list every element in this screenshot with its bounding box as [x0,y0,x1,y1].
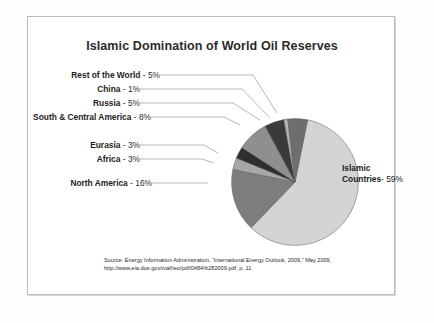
slice-label-value: - 59% [381,174,403,184]
slice-label-eurasia: Eurasia - 3% [28,140,140,150]
slice-label-value: - 3% [123,154,140,164]
slice-label-value: - 5% [123,98,140,108]
slice-label-value: - 1% [123,84,140,94]
slice-label-name: China [97,84,120,94]
source-line-2: http://www.eia.doe.gov/oiaf/ieo/pdf/0484… [104,264,394,272]
slice-label-rest-of-the-world: Rest of the World - 5% [28,70,160,80]
source-line-1: Source: Energy Information Administratio… [104,256,394,264]
chart-title: Islamic Domination of World Oil Reserves [28,39,396,53]
slice-label-south-central-america: South & Central America - 8% [28,112,151,122]
source-note: Source: Energy Information Administratio… [104,256,394,273]
slice-label-value: - 5% [143,70,160,80]
slice-label-value: - 8% [134,112,151,122]
page-background: Islamic Domination of World Oil Reserves [0,0,434,323]
slice-label-china: China - 1% [28,84,140,94]
slice-label-russia: Russia - 5% [28,98,140,108]
slice-label-name: Russia [93,98,120,108]
slice-label-name: Eurasia [90,140,120,150]
slice-label-islamic-countries: Islamic Countries- 59% [342,163,403,184]
slice-label-africa: Africa - 3% [28,154,140,164]
slice-label-name: Rest of the World [71,70,140,80]
slice-label-name: North America [70,178,127,188]
slice-label-name-line1: Islamic [342,163,370,173]
slice-label-value: - 3% [123,140,140,150]
slice-label-name: Africa [97,154,121,164]
slice-label-name: South & Central America [33,112,131,122]
slice-label-value: - 16% [130,178,152,188]
slice-label-name-line2: Countries [342,174,381,184]
chart-frame: Islamic Domination of World Oil Reserves [27,16,395,295]
slice-label-north-america: North America - 16% [28,178,152,188]
